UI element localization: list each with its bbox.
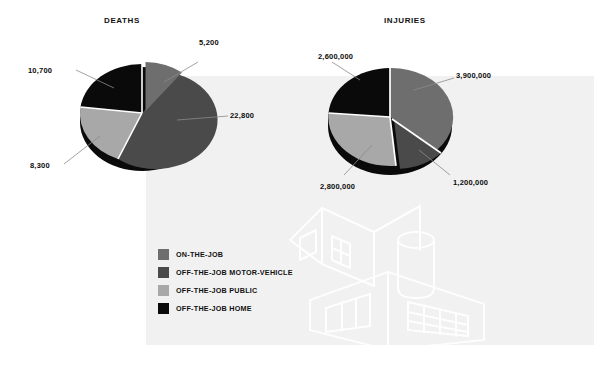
- deaths-slice-home: [81, 64, 143, 113]
- legend-label-on-the-job: ON-THE-JOB: [176, 250, 223, 259]
- legend-swatch-home: [158, 303, 169, 314]
- injuries-pie-chart: [318, 40, 488, 200]
- legend-label-home: OFF-THE-JOB HOME: [176, 304, 252, 313]
- injuries-label-public: 2,800,000: [320, 182, 355, 191]
- legend-item-public: OFF-THE-JOB PUBLIC: [158, 281, 293, 299]
- legend-item-home: OFF-THE-JOB HOME: [158, 299, 293, 317]
- injuries-label-on-the-job: 3,900,000: [456, 71, 491, 80]
- deaths-label-public: 8,300: [30, 161, 50, 170]
- legend-label-public: OFF-THE-JOB PUBLIC: [176, 286, 258, 295]
- injuries-label-motor-vehicle: 1,200,000: [453, 178, 488, 187]
- infographic-canvas: DEATHS 5: [0, 0, 612, 366]
- injuries-chart-title: INJURIES: [384, 16, 426, 25]
- house-illustration-watermark: [270, 180, 510, 350]
- deaths-label-motor-vehicle: 22,800: [230, 111, 254, 120]
- deaths-label-on-the-job: 5,200: [199, 38, 219, 47]
- injuries-slice-home: [329, 68, 391, 117]
- deaths-chart-title: DEATHS: [104, 16, 140, 25]
- legend-swatch-motor-vehicle: [158, 267, 169, 278]
- deaths-pie-chart: [52, 36, 242, 196]
- legend-label-motor-vehicle: OFF-THE-JOB MOTOR-VEHICLE: [176, 268, 293, 277]
- legend-swatch-on-the-job: [158, 249, 169, 260]
- legend-item-motor-vehicle: OFF-THE-JOB MOTOR-VEHICLE: [158, 263, 293, 281]
- injuries-slice-public: [328, 113, 396, 166]
- legend-swatch-public: [158, 285, 169, 296]
- deaths-label-home: 10,700: [28, 66, 52, 75]
- legend-item-on-the-job: ON-THE-JOB: [158, 245, 293, 263]
- injuries-label-home: 2,600,000: [318, 52, 353, 61]
- legend: ON-THE-JOB OFF-THE-JOB MOTOR-VEHICLE OFF…: [158, 245, 293, 317]
